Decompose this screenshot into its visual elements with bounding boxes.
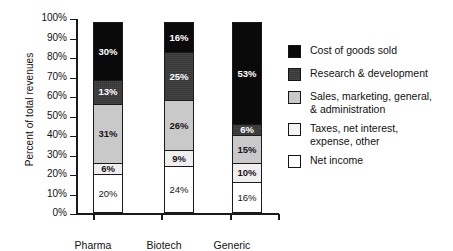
legend-swatch-icon (288, 123, 301, 136)
segment-value-label: 53% (237, 69, 256, 79)
segment-value-label: 25% (169, 72, 188, 82)
legend-label: Cost of goods sold (310, 44, 397, 57)
segment-value-label: 16% (169, 33, 188, 43)
y-tick: 40% (70, 136, 76, 137)
segment-value-label: 31% (98, 129, 117, 139)
segment-value-label: 13% (98, 87, 117, 97)
segment-value-label: 16% (237, 193, 256, 203)
legend-label: Sales, marketing, general,& administrati… (310, 90, 432, 115)
legend-swatch-icon (288, 91, 301, 104)
x-tick (278, 214, 280, 220)
segment-value-label: 30% (98, 47, 117, 57)
y-tick: 30% (70, 156, 76, 157)
x-tick (230, 214, 232, 220)
legend-label: Taxes, net interest,expense, other (310, 122, 398, 147)
y-tick-label: 60% (47, 90, 67, 101)
bar-segment-net[interactable]: 16% (232, 182, 262, 213)
chart-legend: Cost of goods soldResearch & development… (288, 44, 453, 177)
bar-segment-smga[interactable]: 15% (232, 135, 262, 164)
y-axis-title: Percent of total revenues (24, 15, 35, 205)
bar-generic[interactable]: 53%6%15%10%16% (232, 23, 262, 213)
y-tick: 70% (70, 78, 76, 79)
legend-item[interactable]: Research & development (288, 67, 453, 81)
legend-label-line2: expense, other (310, 135, 398, 148)
y-tick: 0% (70, 214, 76, 215)
y-tick-label: 10% (47, 188, 67, 199)
y-tick: 80% (70, 58, 76, 59)
legend-item[interactable]: Taxes, net interest,expense, other (288, 122, 453, 147)
segment-value-label: 24% (169, 185, 188, 195)
y-tick: 20% (70, 175, 76, 176)
segment-value-label: 10% (237, 168, 256, 178)
legend-label: Research & development (310, 67, 428, 80)
y-tick-label: 0% (53, 207, 67, 218)
segment-value-label: 26% (169, 121, 188, 131)
y-tick-label: 80% (47, 51, 67, 62)
bar-segment-smga[interactable]: 26% (164, 100, 194, 151)
y-axis-line (76, 19, 78, 215)
bar-segment-cogs[interactable]: 16% (164, 22, 194, 53)
legend-swatch-icon (288, 68, 301, 81)
y-tick-label: 90% (47, 32, 67, 43)
x-label-pharma: Pharma (53, 239, 133, 251)
segment-value-label: 6% (240, 125, 254, 135)
x-axis-line (76, 213, 279, 215)
y-tick-label: 20% (47, 168, 67, 179)
y-tick: 100% (70, 19, 76, 20)
x-tick (161, 214, 163, 220)
bar-biotech[interactable]: 16%25%26%9%24% (164, 23, 194, 213)
y-tick: 50% (70, 117, 76, 118)
legend-item[interactable]: Cost of goods sold (288, 44, 453, 58)
legend-label-line2: & administration (310, 103, 432, 116)
y-tick-label: 70% (47, 71, 67, 82)
bar-segment-tax[interactable]: 9% (164, 150, 194, 168)
plot-area: 100%90%80%70%60%50%40%30%20%10%0% 30%13%… (76, 19, 278, 214)
y-tick: 60% (70, 97, 76, 98)
bar-segment-tax[interactable]: 10% (232, 163, 262, 183)
bar-segment-rnd[interactable]: 25% (164, 52, 194, 101)
bar-segment-smga[interactable]: 31% (93, 104, 123, 164)
bar-segment-cogs[interactable]: 53% (232, 22, 262, 125)
segment-value-label: 15% (237, 145, 256, 155)
segment-value-label: 9% (172, 154, 186, 164)
y-tick-label: 100% (41, 12, 67, 23)
bar-segment-cogs[interactable]: 30% (93, 22, 123, 81)
segment-value-label: 6% (101, 164, 115, 174)
legend-item[interactable]: Net income (288, 154, 453, 168)
legend-swatch-icon (288, 155, 301, 168)
legend-swatch-icon (288, 45, 301, 58)
bar-pharma[interactable]: 30%13%31%6%20% (93, 23, 123, 213)
y-tick-label: 40% (47, 129, 67, 140)
x-tick (93, 214, 95, 220)
bar-segment-net[interactable]: 20% (93, 174, 123, 213)
y-tick: 90% (70, 39, 76, 40)
y-tick-label: 30% (47, 149, 67, 160)
segment-value-label: 20% (98, 189, 117, 199)
x-label-generic: Generic (192, 239, 272, 251)
y-tick-label: 50% (47, 110, 67, 121)
bar-segment-rnd[interactable]: 13% (93, 80, 123, 105)
bar-segment-net[interactable]: 24% (164, 166, 194, 213)
y-tick: 10% (70, 195, 76, 196)
legend-label: Net income (310, 154, 363, 167)
legend-item[interactable]: Sales, marketing, general,& administrati… (288, 90, 453, 115)
